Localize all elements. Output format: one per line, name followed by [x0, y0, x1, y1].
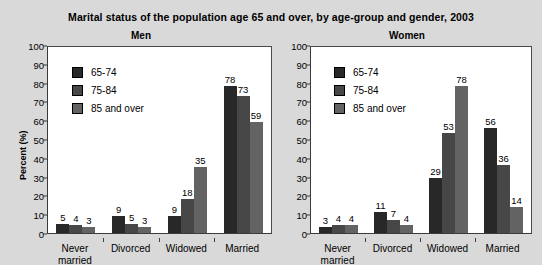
bar: [345, 225, 358, 233]
bar-value-label: 4: [349, 213, 354, 224]
bar: [112, 216, 125, 233]
x-axis-category-label: Divorced: [373, 243, 412, 255]
x-axis-category-label-line: Married: [486, 243, 520, 255]
bar: [497, 165, 510, 233]
bar: [319, 227, 332, 233]
x-axis-category-label: Nevermarried: [321, 243, 355, 266]
bar: [69, 225, 82, 233]
bar-value-label: 53: [443, 121, 454, 132]
legend-item-label: 75-84: [91, 85, 117, 96]
bar-value-label: 56: [485, 116, 496, 127]
bar-value-label: 18: [182, 187, 193, 198]
bar: [138, 227, 151, 233]
bar-value-label: 35: [195, 155, 206, 166]
legend-swatch-icon: [334, 85, 345, 96]
x-axis-category-label-line: Divorced: [373, 243, 412, 255]
legend-swatch-icon: [72, 67, 83, 78]
bar: [224, 86, 237, 233]
bar: [484, 128, 497, 233]
x-axis-tick-mark: [159, 238, 160, 242]
bar: [374, 212, 387, 233]
bar-value-label: 4: [73, 213, 78, 224]
bar-value-label: 5: [60, 212, 65, 223]
chart-title: Marital status of the population age 65 …: [0, 11, 542, 23]
legend-item: 65-74: [334, 63, 406, 81]
y-axis-tick-labels-women: 0102030405060708090100: [278, 46, 307, 234]
chart-panel-women: Women 0102030405060708090100 34411742953…: [278, 30, 536, 262]
legend-item-label: 85 and over: [91, 103, 144, 114]
bar-value-label: 73: [238, 84, 249, 95]
x-axis-category-label-line: married: [58, 255, 92, 267]
x-axis-category-label-line: Never: [321, 243, 355, 255]
y-axis-tick-label: 100: [28, 41, 44, 52]
bar-value-label: 3: [86, 215, 91, 226]
bar: [82, 227, 95, 233]
legend-women: 65-7475-8485 and over: [334, 63, 406, 117]
legend-men: 65-7475-8485 and over: [72, 63, 144, 117]
bar: [194, 167, 207, 233]
bar: [237, 96, 250, 233]
bar: [510, 207, 523, 233]
legend-item: 75-84: [334, 81, 406, 99]
x-axis-category-label: Widowed: [166, 243, 207, 255]
bar-value-label: 9: [172, 204, 177, 215]
chart-panel-men: Men 0102030405060708090100 5439539183578…: [8, 30, 274, 262]
legend-item-label: 85 and over: [353, 103, 406, 114]
x-axis-category-label: Married: [486, 243, 520, 255]
bar-value-label: 11: [376, 200, 386, 211]
y-axis-tick-label: 100: [291, 41, 307, 52]
y-axis-title: Percent (%): [18, 130, 28, 180]
legend-item-label: 65-74: [91, 67, 117, 78]
legend-swatch-icon: [334, 67, 345, 78]
bar-value-label: 4: [336, 213, 341, 224]
bar: [400, 225, 413, 233]
legend-swatch-icon: [72, 85, 83, 96]
bar-value-label: 3: [323, 215, 328, 226]
panel-title-men: Men: [8, 30, 274, 41]
bar: [250, 122, 263, 233]
bar: [168, 216, 181, 233]
legend-swatch-icon: [72, 103, 83, 114]
bar-value-label: 78: [456, 74, 467, 85]
bar-value-label: 4: [404, 213, 409, 224]
bar: [455, 86, 468, 233]
x-axis-category-label: Divorced: [111, 243, 150, 255]
x-axis-tick-mark: [365, 238, 366, 242]
x-axis-tick-mark: [420, 238, 421, 242]
bar-value-label: 5: [129, 212, 134, 223]
bar-value-label: 14: [511, 195, 522, 206]
bar-value-label: 36: [498, 153, 509, 164]
bar: [429, 178, 442, 233]
x-axis-tick-mark: [475, 238, 476, 242]
bar: [387, 220, 400, 233]
x-axis-category-label: Married: [225, 243, 259, 255]
x-axis-category-label-line: married: [321, 255, 355, 267]
bar: [442, 133, 455, 233]
bar-value-label: 59: [251, 110, 262, 121]
bar-value-label: 29: [430, 166, 441, 177]
x-axis-category-label-line: Never: [58, 243, 92, 255]
x-axis-category-label-line: Widowed: [166, 243, 207, 255]
legend-swatch-icon: [334, 103, 345, 114]
bar-value-label: 7: [391, 208, 396, 219]
bar-value-label: 78: [225, 74, 236, 85]
legend-item-label: 75-84: [353, 85, 379, 96]
bar-value-label: 3: [142, 215, 147, 226]
x-axis-tick-mark: [214, 238, 215, 242]
x-axis-category-label-line: Widowed: [427, 243, 468, 255]
x-axis-labels-men: NevermarriedDivorcedWidowedMarried: [47, 238, 272, 266]
bar: [56, 224, 69, 233]
bar: [125, 224, 138, 233]
legend-item: 65-74: [72, 63, 144, 81]
legend-item: 75-84: [72, 81, 144, 99]
panel-title-women: Women: [278, 30, 536, 41]
legend-item: 85 and over: [72, 99, 144, 117]
bar-value-label: 9: [116, 204, 121, 215]
x-axis-category-label: Widowed: [427, 243, 468, 255]
legend-item-label: 65-74: [353, 67, 379, 78]
chart-figure: Marital status of the population age 65 …: [0, 0, 542, 271]
x-axis-labels-women: NevermarriedDivorcedWidowedMarried: [310, 238, 532, 266]
x-axis-category-label-line: Divorced: [111, 243, 150, 255]
x-axis-tick-mark: [103, 238, 104, 242]
bar: [181, 199, 194, 233]
